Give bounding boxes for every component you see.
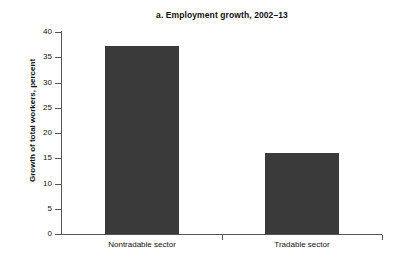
x-axis-tick [382, 235, 383, 240]
y-axis-tick-label: 15 [24, 154, 52, 162]
y-axis-tick [55, 83, 61, 84]
y-axis-tick [55, 32, 61, 33]
y-axis-tick [55, 108, 61, 109]
y-axis-tick [55, 234, 61, 235]
y-axis-tick-label: 30 [24, 79, 52, 87]
y-axis-tick [55, 209, 61, 210]
y-axis-tick [55, 57, 61, 58]
y-axis-tick [55, 158, 61, 159]
x-axis-category-label: Nontradable sector [62, 240, 222, 249]
y-axis-tick-label: 40 [24, 28, 52, 36]
chart-figure: a. Employment growth, 2002–13 Growth of … [0, 0, 404, 269]
y-axis-tick-label: 10 [24, 180, 52, 188]
y-axis-tick-label: 5 [24, 205, 52, 213]
y-axis-tick-label: 20 [24, 129, 52, 137]
y-axis-tick-label: 25 [24, 104, 52, 112]
y-axis-tick [55, 184, 61, 185]
y-axis-tick [55, 133, 61, 134]
y-axis-tick-label: 35 [24, 53, 52, 61]
chart-title: a. Employment growth, 2002–13 [62, 10, 382, 20]
plot-area [62, 32, 382, 234]
y-axis-tick-label: 0 [24, 230, 52, 238]
x-axis-category-label: Tradable sector [222, 240, 382, 249]
bar [105, 46, 179, 234]
bar [265, 153, 339, 234]
